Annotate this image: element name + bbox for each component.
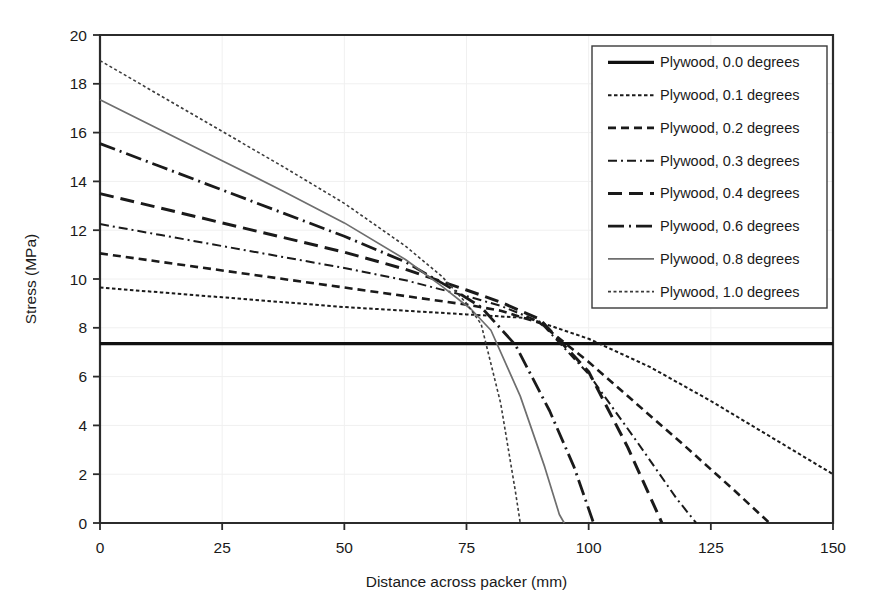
y-tick-labels: 02468101214161820 bbox=[70, 27, 88, 532]
chart-legend: Plywood, 0.0 degreesPlywood, 0.1 degrees… bbox=[592, 46, 827, 308]
y-tick-label: 2 bbox=[78, 466, 87, 483]
x-tick-label: 75 bbox=[458, 539, 475, 556]
y-tick-label: 6 bbox=[78, 368, 87, 385]
x-tick-label: 0 bbox=[96, 539, 105, 556]
legend-label: Plywood, 0.6 degrees bbox=[660, 218, 799, 234]
chart-container: 02468101214161820 0255075100125150 Stres… bbox=[0, 0, 881, 604]
legend-label: Plywood, 0.3 degrees bbox=[660, 153, 799, 169]
y-tick-label: 8 bbox=[78, 319, 87, 336]
x-tick-labels: 0255075100125150 bbox=[96, 539, 847, 556]
y-tick-label: 0 bbox=[78, 515, 87, 532]
legend-label: Plywood, 0.2 degrees bbox=[660, 120, 799, 136]
x-tick-label: 100 bbox=[576, 539, 602, 556]
x-tick-label: 150 bbox=[820, 539, 846, 556]
legend-label: Plywood, 0.0 degrees bbox=[660, 54, 799, 70]
legend-box bbox=[592, 46, 827, 308]
legend-label: Plywood, 0.4 degrees bbox=[660, 185, 799, 201]
series-line-plywood-0-8-degrees bbox=[100, 100, 564, 523]
legend-label: Plywood, 0.1 degrees bbox=[660, 87, 799, 103]
y-tick-label: 10 bbox=[70, 271, 88, 288]
x-tick-label: 25 bbox=[214, 539, 231, 556]
series-line-plywood-0-6-degrees bbox=[100, 144, 594, 523]
legend-label: Plywood, 0.8 degrees bbox=[660, 251, 799, 267]
stress-distance-line-chart: 02468101214161820 0255075100125150 Stres… bbox=[0, 0, 881, 604]
x-tick-label: 125 bbox=[698, 539, 724, 556]
y-tick-label: 18 bbox=[70, 75, 87, 92]
legend-label: Plywood, 1.0 degrees bbox=[660, 284, 799, 300]
y-tick-label: 16 bbox=[70, 124, 87, 141]
y-axis-title: Stress (MPa) bbox=[22, 234, 39, 324]
y-tick-label: 12 bbox=[70, 222, 87, 239]
x-axis-title: Distance across packer (mm) bbox=[366, 573, 568, 590]
y-tick-label: 14 bbox=[70, 173, 88, 190]
x-tick-label: 50 bbox=[336, 539, 354, 556]
y-tick-label: 4 bbox=[78, 417, 87, 434]
y-tick-label: 20 bbox=[70, 27, 88, 44]
